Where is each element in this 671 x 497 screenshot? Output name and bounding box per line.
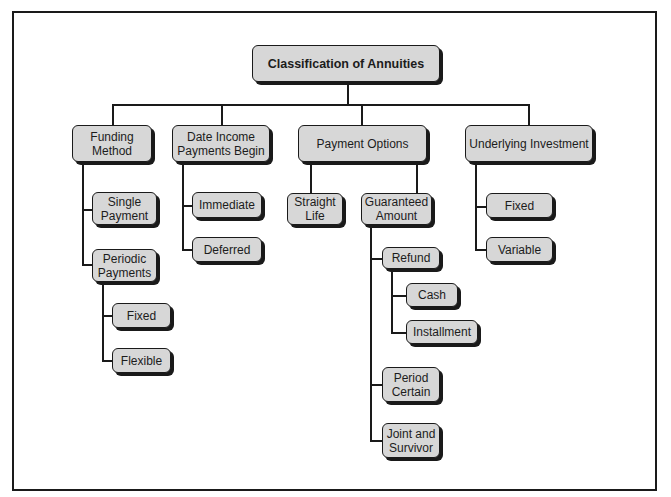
- node-label: Period Certain: [392, 371, 431, 399]
- connector-joint: [370, 440, 382, 442]
- node-root: Classification of Annuities: [252, 45, 440, 82]
- node-label: Underlying Investment: [469, 137, 588, 151]
- connector-straight: [310, 161, 312, 194]
- connector-root-stem: [347, 84, 349, 104]
- node-label: Periodic Payments: [98, 252, 151, 280]
- node-variable: Variable: [486, 237, 553, 262]
- connector-payment: [361, 104, 363, 125]
- node-flexible: Flexible: [112, 348, 171, 373]
- connector-underlying: [528, 104, 530, 125]
- connector-guaranteed-trunk: [370, 224, 372, 441]
- node-installment: Installment: [406, 320, 478, 344]
- connector-variable: [475, 249, 486, 251]
- node-label: Cash: [418, 288, 446, 302]
- connector-installment: [391, 332, 406, 334]
- connector-flexible: [102, 360, 112, 362]
- node-label: Refund: [392, 251, 431, 265]
- node-immediate: Immediate: [192, 192, 262, 218]
- node-label: Payment Options: [316, 137, 408, 151]
- node-label: Deferred: [204, 243, 251, 257]
- connector-refund-trunk: [391, 268, 393, 332]
- node-label: Date Income Payments Begin: [177, 130, 264, 158]
- node-label: Variable: [498, 243, 541, 257]
- node-label: Fixed: [127, 309, 156, 323]
- node-straight-life: Straight Life: [287, 193, 343, 225]
- node-single-payment: Single Payment: [92, 192, 157, 225]
- node-label: Classification of Annuities: [268, 57, 425, 71]
- node-label: Straight Life: [294, 195, 335, 223]
- node-label: Installment: [413, 325, 471, 339]
- node-guaranteed-amount: Guaranteed Amount: [361, 193, 432, 225]
- node-joint-survivor: Joint and Survivor: [382, 423, 440, 458]
- connector-guaranteed: [416, 161, 418, 194]
- node-underlying-investment: Underlying Investment: [465, 125, 593, 162]
- connector-refund: [370, 258, 382, 260]
- connector-single: [82, 209, 92, 211]
- node-cash: Cash: [406, 283, 458, 307]
- connector-immediate: [182, 205, 192, 207]
- connector-top-bar: [112, 104, 529, 106]
- node-label: Flexible: [121, 354, 162, 368]
- node-label: Joint and Survivor: [387, 427, 436, 455]
- node-payment-options: Payment Options: [298, 125, 427, 162]
- connector-date: [221, 104, 223, 125]
- node-date-income: Date Income Payments Begin: [172, 125, 270, 162]
- connector-fixed-a: [102, 315, 112, 317]
- connector-fixed-b: [475, 206, 486, 208]
- node-deferred: Deferred: [192, 237, 262, 262]
- connector-funding: [112, 104, 114, 125]
- node-label: Fixed: [505, 199, 534, 213]
- connector-funding-trunk: [82, 161, 84, 265]
- node-refund: Refund: [382, 247, 440, 269]
- node-label: Single Payment: [101, 195, 148, 223]
- connector-deferred: [182, 249, 192, 251]
- connector-period: [370, 384, 382, 386]
- connector-periodic: [82, 264, 92, 266]
- node-periodic-payments: Periodic Payments: [92, 249, 157, 282]
- node-funding-method: Funding Method: [72, 125, 152, 162]
- connector-cash: [391, 295, 406, 297]
- node-label: Guaranteed Amount: [365, 195, 428, 223]
- connector-periodic-trunk: [102, 282, 104, 361]
- node-label: Funding Method: [90, 130, 133, 158]
- node-period-certain: Period Certain: [382, 367, 440, 402]
- node-fixed-investment: Fixed: [486, 193, 553, 218]
- node-label: Immediate: [199, 198, 255, 212]
- node-fixed-funding: Fixed: [112, 303, 171, 328]
